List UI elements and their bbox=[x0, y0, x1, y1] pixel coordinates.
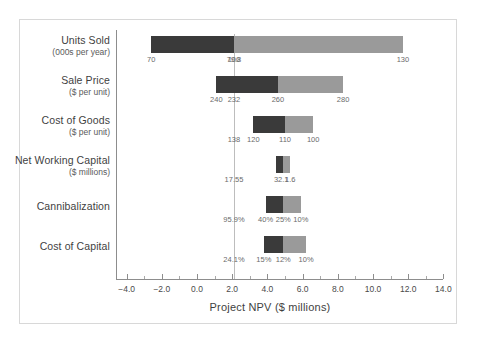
bar-segment-high bbox=[278, 76, 343, 93]
input-value-high: 1.6 bbox=[272, 175, 308, 184]
bar-segment-high bbox=[283, 196, 301, 213]
bar-segment-low bbox=[151, 36, 234, 53]
x-axis-major-tick bbox=[267, 274, 268, 279]
base-case-line bbox=[234, 34, 235, 279]
category-unit-label: ($ millions) bbox=[10, 167, 110, 178]
x-axis-minor-tick bbox=[215, 276, 216, 279]
x-axis-tick-label: 0.0 bbox=[177, 284, 217, 294]
x-axis-major-tick bbox=[408, 274, 409, 279]
category-unit-label: ($ per unit) bbox=[10, 127, 110, 138]
input-value-high: 280 bbox=[325, 95, 361, 104]
bar-segment-high bbox=[283, 236, 306, 253]
x-axis-minor-tick bbox=[250, 276, 251, 279]
x-axis-tick-label: −2.0 bbox=[142, 284, 182, 294]
input-value-high: 100 bbox=[295, 135, 331, 144]
x-axis-major-tick bbox=[232, 274, 233, 279]
base-case-value: 79.8 bbox=[216, 55, 252, 64]
x-axis-tick-label: 10.0 bbox=[353, 284, 393, 294]
x-axis-tick-label: 4.0 bbox=[247, 284, 287, 294]
category-label: Cost of Goods bbox=[10, 114, 110, 126]
input-value-high: 10% bbox=[283, 215, 319, 224]
x-axis-minor-tick bbox=[179, 276, 180, 279]
x-axis-minor-tick bbox=[426, 276, 427, 279]
x-axis-minor-tick bbox=[391, 276, 392, 279]
category-label: Cost of Capital bbox=[10, 240, 110, 252]
x-axis-line bbox=[116, 279, 443, 280]
bar-segment-high bbox=[285, 116, 313, 133]
base-case-value: 17.55 bbox=[216, 175, 252, 184]
x-axis-minor-tick bbox=[285, 276, 286, 279]
x-axis-major-tick bbox=[443, 274, 444, 279]
bar-segment-high bbox=[283, 156, 290, 173]
x-axis-major-tick bbox=[127, 274, 128, 279]
x-axis-major-tick bbox=[373, 274, 374, 279]
x-axis-minor-tick bbox=[144, 276, 145, 279]
x-axis-tick-label: 12.0 bbox=[388, 284, 428, 294]
x-axis-tick-label: 14.0 bbox=[423, 284, 463, 294]
input-value-mid: 260 bbox=[260, 95, 296, 104]
base-case-value: 138 bbox=[216, 135, 252, 144]
category-label: Net Working Capital bbox=[10, 154, 110, 166]
x-axis-tick-label: 8.0 bbox=[318, 284, 358, 294]
x-axis-minor-tick bbox=[320, 276, 321, 279]
category-label: Units Sold bbox=[10, 34, 110, 46]
base-case-value: 232 bbox=[216, 95, 252, 104]
bar-segment-low bbox=[276, 156, 283, 173]
x-axis-tick-label: 6.0 bbox=[283, 284, 323, 294]
category-axis bbox=[116, 30, 117, 279]
input-value-low: 70 bbox=[133, 55, 169, 64]
input-value-high: 10% bbox=[288, 255, 324, 264]
base-case-value: 24.1% bbox=[216, 255, 252, 264]
bar-segment-low bbox=[216, 76, 278, 93]
x-axis-minor-tick bbox=[355, 276, 356, 279]
category-label: Sale Price bbox=[10, 74, 110, 86]
category-unit-label: ($ per unit) bbox=[10, 87, 110, 98]
bar-segment-low bbox=[253, 116, 285, 133]
x-axis-tick-label: 2.0 bbox=[212, 284, 252, 294]
x-axis-major-tick bbox=[162, 274, 163, 279]
x-axis-major-tick bbox=[303, 274, 304, 279]
bar-segment-high bbox=[234, 36, 403, 53]
x-axis-major-tick bbox=[197, 274, 198, 279]
x-axis-major-tick bbox=[338, 274, 339, 279]
bar-segment-low bbox=[266, 196, 284, 213]
input-value-high: 130 bbox=[385, 55, 421, 64]
category-unit-label: (000s per year) bbox=[10, 47, 110, 58]
bar-segment-low bbox=[264, 236, 283, 253]
x-axis-tick-label: −4.0 bbox=[107, 284, 147, 294]
category-label: Cannibalization bbox=[10, 200, 110, 212]
base-case-value: 95.9% bbox=[216, 215, 252, 224]
x-axis-title: Project NPV ($ millions) bbox=[140, 301, 400, 313]
tornado-chart: Project NPV ($ millions) −4.0−2.00.02.04… bbox=[0, 0, 478, 345]
